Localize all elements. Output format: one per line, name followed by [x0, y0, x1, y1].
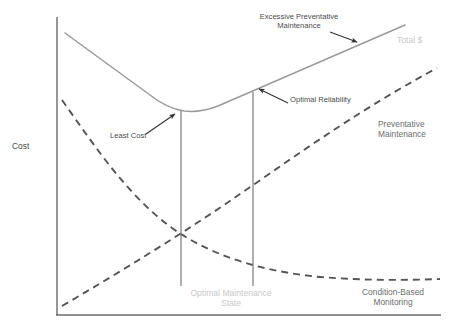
- curve-label-total-dollars: Total $: [397, 35, 447, 45]
- annotation-optimal-reliability: Optimal Reliability: [290, 96, 386, 105]
- y-axis-label-cost: Cost: [12, 142, 52, 152]
- curve-label-condition-based-monitoring: Condition-Based Monitoring: [343, 288, 443, 308]
- chart-canvas: [0, 0, 449, 331]
- excessive-pm-arrow: [330, 32, 357, 42]
- curve-label-preventative-maintenance: Preventative Maintenance: [378, 120, 448, 140]
- axes-group: [56, 17, 441, 315]
- marker-label-optimal-maintenance-state: Optimal Maintenance State: [162, 288, 300, 308]
- least-cost-arrow: [146, 114, 175, 134]
- annotation-least-cost: Least Cost: [110, 132, 172, 141]
- optimal-reliability-arrow: [259, 89, 288, 103]
- maintenance-cost-diagram: Excessive Preventative Maintenance Total…: [0, 0, 449, 331]
- annotation-excessive-preventative-maintenance: Excessive Preventative Maintenance: [245, 13, 353, 31]
